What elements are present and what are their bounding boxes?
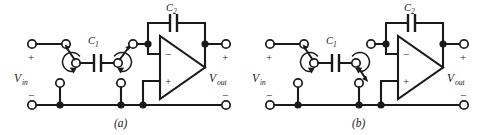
ground-junction-b-mid xyxy=(355,101,362,108)
input-plus-sign-b: + xyxy=(266,51,272,63)
switch-right-a-pole[interactable] xyxy=(114,59,122,67)
output-sublabel-b: out xyxy=(455,78,466,87)
switch-right-b-pole[interactable] xyxy=(352,59,360,67)
caption-b: (b) xyxy=(352,117,366,130)
switch-right-b-throw-top[interactable] xyxy=(367,40,375,48)
input-minus-sign-a: − xyxy=(28,89,34,101)
switch-right-a-throw-bottom[interactable] xyxy=(117,79,125,87)
ground-junction-a-mid xyxy=(117,101,124,108)
input-plus-sign-a: + xyxy=(28,51,34,63)
switch-left-a-throw-bottom[interactable] xyxy=(56,79,64,87)
switch-right-b-throw-bottom[interactable] xyxy=(355,79,363,87)
output-terminal-a-plus[interactable] xyxy=(222,40,230,48)
output-terminal-b-plus[interactable] xyxy=(460,40,468,48)
panel-b: + V in C 1 xyxy=(252,2,468,130)
ground-junction-b-opamp xyxy=(377,101,384,108)
opamp-b-body xyxy=(398,36,443,99)
panel-a: + V in C 1 xyxy=(14,2,230,130)
cap-c2-a-sublabel: 2 xyxy=(173,7,177,16)
figure-switched-capacitor-amplifier: + V in C 1 xyxy=(0,0,492,135)
output-sublabel-a: out xyxy=(217,78,228,87)
caption-a: (a) xyxy=(114,117,128,130)
output-terminal-a-minus[interactable] xyxy=(222,101,230,109)
output-plus-sign-a: + xyxy=(222,51,228,63)
ground-junction-a-opamp xyxy=(139,101,146,108)
input-terminal-b-minus[interactable] xyxy=(266,101,274,109)
opamp-b-noninverting-sign: + xyxy=(403,75,409,87)
opamp-b-inverting-sign: − xyxy=(403,48,409,60)
switch-left-b-throw-bottom[interactable] xyxy=(294,79,302,87)
cap-c1-a-sublabel: 1 xyxy=(95,40,99,49)
output-minus-sign-b: − xyxy=(460,89,466,101)
switch-right-a-throw-top[interactable] xyxy=(129,40,137,48)
cap-c1-b-sublabel: 1 xyxy=(333,40,337,49)
input-minus-sign-b: − xyxy=(266,89,272,101)
input-sublabel-b: in xyxy=(260,78,266,87)
input-sublabel-a: in xyxy=(22,78,28,87)
opamp-a-body xyxy=(160,36,205,99)
input-terminal-a-minus[interactable] xyxy=(28,101,36,109)
output-plus-sign-b: + xyxy=(460,51,466,63)
switch-left-a-pole[interactable] xyxy=(72,59,80,67)
output-terminal-b-minus[interactable] xyxy=(460,101,468,109)
input-terminal-a-plus[interactable] xyxy=(28,40,36,48)
opamp-a-inverting-sign: − xyxy=(165,48,171,60)
switch-left-b-pole[interactable] xyxy=(310,59,318,67)
input-terminal-b-plus[interactable] xyxy=(266,40,274,48)
cap-c2-b-sublabel: 2 xyxy=(411,7,415,16)
opamp-a-noninverting-sign: + xyxy=(165,75,171,87)
output-minus-sign-a: − xyxy=(222,89,228,101)
